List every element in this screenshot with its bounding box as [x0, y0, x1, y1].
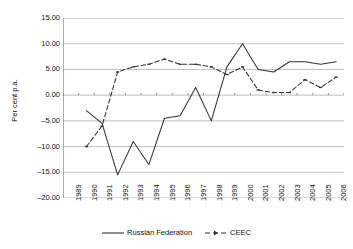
y-tick-label: –20.00	[14, 194, 60, 202]
x-tick-label: 2005	[324, 184, 333, 201]
x-tick-label: 1999	[230, 184, 239, 201]
x-tick-label: 2003	[293, 184, 302, 201]
x-tick-label: 1997	[199, 184, 208, 201]
x-tick-label: 1993	[136, 184, 145, 201]
x-tick-label: 2002	[277, 184, 286, 201]
y-tick-label: 15.00	[14, 14, 60, 22]
data-point-marker	[132, 66, 135, 67]
y-tick-label: 0.00	[14, 91, 60, 99]
chart-figure: Per cent p.a. 15.0010.005.000.00–5.00–10…	[0, 0, 353, 249]
data-point-marker	[147, 64, 150, 65]
legend-label-russian-federation: Russian Federation	[127, 228, 192, 237]
data-point-marker	[178, 64, 181, 65]
data-point-marker	[257, 89, 260, 90]
data-point-marker	[241, 66, 244, 67]
legend-swatch-dashed-line	[205, 229, 227, 237]
x-tick-label: 2004	[308, 184, 317, 201]
data-point-marker	[100, 125, 103, 126]
plot-svg	[63, 18, 344, 198]
x-tick-label: 1989	[74, 184, 83, 201]
y-tick-label: 5.00	[14, 65, 60, 73]
data-point-marker	[288, 92, 291, 93]
series-line-russian-federation	[86, 44, 336, 175]
x-tick-label: 1990	[90, 184, 99, 201]
data-point-marker	[85, 146, 88, 147]
chart-legend: Russian Federation CEEC	[0, 228, 353, 237]
x-tick-label: 1995	[168, 184, 177, 201]
data-point-marker	[116, 71, 119, 72]
legend-label-ceec: CEEC	[230, 228, 251, 237]
y-tick-label: –15.00	[14, 168, 60, 176]
x-tick-label: 2006	[339, 184, 348, 201]
y-tick-label: –5.00	[14, 117, 60, 125]
x-tick-label: 1992	[121, 184, 130, 201]
y-tick-label: 10.00	[14, 40, 60, 48]
legend-swatch-solid-line	[102, 229, 124, 237]
x-tick-label: 2000	[246, 184, 255, 201]
data-point-marker	[303, 79, 306, 80]
data-point-marker	[210, 66, 213, 67]
x-tick-label: 1994	[152, 184, 161, 201]
data-point-marker	[194, 64, 197, 65]
x-tick-label: 1991	[105, 184, 114, 201]
data-point-marker	[319, 87, 322, 88]
data-point-marker	[335, 76, 338, 77]
x-tick-label: 1998	[215, 184, 224, 201]
legend-item-ceec: CEEC	[205, 228, 251, 237]
data-point-marker	[225, 74, 228, 75]
data-point-marker	[272, 92, 275, 93]
x-tick-label: 1996	[183, 184, 192, 201]
plot-area	[63, 18, 344, 198]
y-tick-label: –10.00	[14, 143, 60, 151]
y-axis-tick-labels: 15.0010.005.000.00–5.00–10.00–15.00–20.0…	[14, 0, 60, 249]
x-tick-label: 2001	[261, 184, 270, 201]
series-line-ceec	[86, 59, 336, 146]
legend-item-russian-federation: Russian Federation	[102, 228, 192, 237]
data-point-marker	[163, 58, 166, 59]
